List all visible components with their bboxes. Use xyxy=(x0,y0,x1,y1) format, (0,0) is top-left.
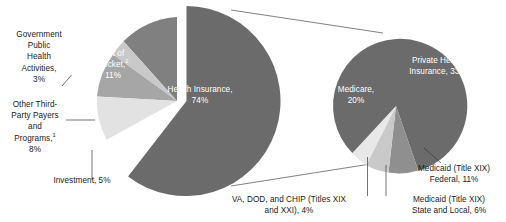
label-va-dod-chip: VA, DOD, and CHIP (Titles XIX and XXI), … xyxy=(214,194,364,216)
footnote-marker-2: 2 xyxy=(125,58,128,64)
label-government-public-health: Government Public Health Activities, 3% xyxy=(4,29,74,85)
label-out-of-pocket-l2: Pocket, xyxy=(98,60,126,69)
label-investment: Investment, 5% xyxy=(38,175,126,186)
label-other-third-party: Other Third- Party Payers and Programs,1… xyxy=(4,99,66,155)
connector-line-top xyxy=(231,10,383,33)
footnote-marker-1: 1 xyxy=(53,132,56,138)
label-out-of-pocket-l1: Out of xyxy=(102,49,125,58)
label-medicare: Medicare, 20% xyxy=(331,84,381,106)
label-out-of-pocket: Out of Pocket,2 11% xyxy=(84,48,142,82)
label-health-insurance: Health Insurance, 74% xyxy=(158,84,242,106)
label-medicaid-federal: Medicaid (Title XIX) Federal, 11% xyxy=(404,163,504,185)
figure-graphics xyxy=(0,0,506,222)
pie-chart-figure: Government Public Health Activities, 3% … xyxy=(0,0,506,222)
label-out-of-pocket-pct: 11% xyxy=(105,71,121,80)
label-medicaid-state-local: Medicaid (Title XIX) State and Local, 6% xyxy=(396,194,502,216)
label-other-third-party-pct: 8% xyxy=(29,145,41,154)
label-private-health-insurance: Private Health Insurance, 33% xyxy=(392,55,484,77)
